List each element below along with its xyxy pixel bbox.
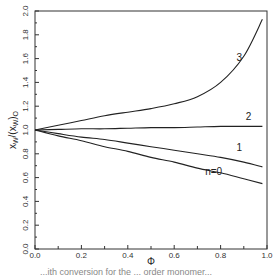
y-tick-label: 2.0 <box>21 5 30 17</box>
curve-3 <box>35 19 262 130</box>
plot-frame <box>35 11 267 249</box>
curve-label-n0: n=0 <box>205 166 222 177</box>
x-tick-label: 1.0 <box>261 251 273 260</box>
y-tick-label: 0.6 <box>21 171 30 183</box>
figure-caption: ...ith conversion for the ... order mono… <box>40 267 280 277</box>
y-tick-label: 1.0 <box>21 124 30 136</box>
y-tick-label: 1.6 <box>21 52 30 64</box>
x-tick-label: 0.6 <box>169 251 181 260</box>
y-tick-label: 0.2 <box>21 219 30 231</box>
data-curves <box>35 19 262 183</box>
svg-text:xW/(xW)O: xW/(xW)O <box>7 110 19 149</box>
curve-2 <box>35 126 262 130</box>
x-axis-title: Φ <box>147 256 155 267</box>
x-tick-label: 0.2 <box>76 251 88 260</box>
y-tick-label: 1.2 <box>21 100 30 112</box>
curve-label-1: 1 <box>236 142 242 153</box>
y-tick-label: 1.8 <box>21 29 30 41</box>
y-tick-label: 0.8 <box>21 148 30 160</box>
y-tick-label: 0.4 <box>21 195 30 207</box>
line-chart: 0.00.20.40.60.81.01.21.41.61.82.0 0.00.2… <box>0 0 280 278</box>
curve-label-3: 3 <box>236 52 242 63</box>
x-tick-label: 0.0 <box>29 251 41 260</box>
curve-n0 <box>35 130 262 184</box>
y-axis-title: xW/(xW)O <box>7 110 19 149</box>
curve-label-2: 2 <box>246 111 252 122</box>
y-tick-label: 1.4 <box>21 76 30 88</box>
x-tick-label: 0.8 <box>215 251 227 260</box>
x-tick-label: 0.4 <box>122 251 134 260</box>
curve-1 <box>35 130 262 167</box>
